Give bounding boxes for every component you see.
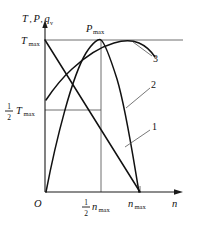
y-tick-tmax-symbol: T	[21, 35, 28, 46]
x-axis-arrow	[174, 189, 183, 194]
x-tick-half-subscript: max	[99, 206, 111, 213]
y-tick-tmax-subscript: max	[29, 40, 41, 47]
curve-label-1: 1	[152, 121, 157, 132]
origin-label: O	[34, 198, 42, 209]
p-max-label: P max	[85, 23, 105, 35]
x-tick-label-half-nmax: 1 2 n max	[82, 198, 110, 218]
y-tick-half-subscript: max	[24, 110, 36, 117]
chart-figure: T , P , q v T max 1 2 T max P max O	[0, 0, 200, 237]
x-axis-name: n	[172, 198, 177, 209]
y-tick-half-numerator: 1	[7, 102, 11, 111]
curve-label-3: 3	[153, 53, 158, 64]
motor-characteristic-chart: T , P , q v T max 1 2 T max P max O	[0, 0, 200, 237]
p-max-symbol: P	[85, 23, 93, 34]
y-axis-label: T , P , q v	[22, 13, 53, 26]
x-tick-half-denominator: 2	[84, 209, 88, 218]
y-tick-label-tmax: T max	[21, 35, 40, 47]
y-axis-label-comma-1: ,	[30, 14, 32, 24]
y-axis-label-q: q	[45, 13, 50, 24]
x-tick-label-nmax: n max	[128, 198, 146, 210]
y-axis-label-comma-2: ,	[41, 14, 43, 24]
y-axis-label-q-subscript: v	[50, 20, 53, 26]
leader-line-2	[126, 88, 150, 108]
x-tick-half-symbol: n	[92, 201, 97, 212]
x-tick-nmax-symbol: n	[128, 198, 133, 209]
p-max-subscript: max	[93, 28, 105, 35]
y-axis-label-P: P	[33, 13, 41, 24]
curve-label-2: 2	[151, 79, 156, 90]
y-axis-label-T: T	[22, 13, 29, 24]
curve-3-flow	[46, 41, 155, 100]
y-tick-half-denominator: 2	[7, 113, 11, 122]
y-tick-label-half-tmax: 1 2 T max	[5, 102, 35, 122]
x-tick-half-numerator: 1	[84, 198, 88, 207]
y-tick-half-symbol: T	[16, 105, 23, 116]
x-tick-nmax-subscript: max	[135, 203, 147, 210]
